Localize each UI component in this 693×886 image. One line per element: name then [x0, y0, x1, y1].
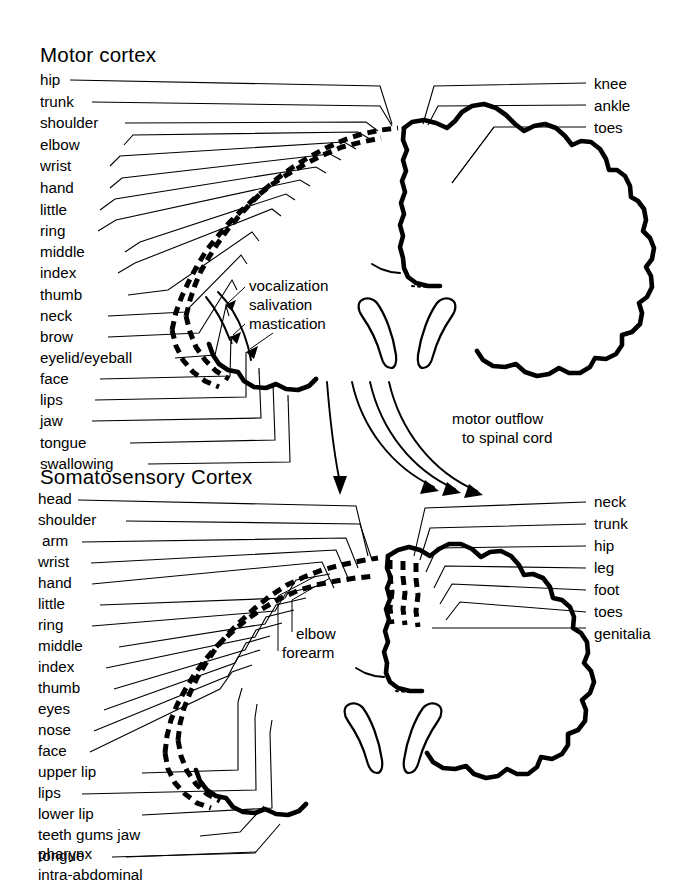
outflow-arrowhead-1 — [333, 476, 347, 495]
outflow-path-1 — [327, 382, 339, 478]
somato-label-head: head — [38, 490, 72, 507]
somatosensory-left-labels: head shoulder arm wrist hand little ring… — [37, 490, 140, 864]
motor-outflow: motor outflow to spinal cord — [327, 382, 552, 498]
somato-label-index: index — [38, 658, 75, 675]
homunculus-figure: Motor cortex — [0, 0, 693, 886]
somato-label-leg: leg — [594, 559, 614, 576]
motor-label-face: face — [40, 370, 69, 387]
motor-label-hip: hip — [40, 71, 60, 88]
motor-cortex-title: Motor cortex — [40, 43, 157, 66]
motor-brain-outline — [209, 104, 654, 390]
somatosensory-bottom-label-group: pharynx intra-abdominal — [38, 845, 438, 886]
motor-outflow-caption-line2: to spinal cord — [462, 429, 552, 446]
motor-label-knee: knee — [594, 75, 627, 92]
somato-label-arm: arm — [42, 532, 68, 549]
somato-label-eyes: eyes — [38, 700, 70, 717]
motor-label-brow: brow — [40, 328, 73, 345]
somatosensory-right-leader-lines — [414, 502, 586, 628]
somato-label-elbow: elbow — [296, 625, 336, 642]
somato-label-teeth-gums-jaw: teeth gums jaw — [38, 826, 140, 843]
somato-label-hip: hip — [594, 537, 614, 554]
somatosensory-cortex-section: Somatosensory Cortex — [37, 465, 651, 864]
somato-label-wrist: wrist — [37, 553, 70, 570]
motor-outflow-caption-line1: motor outflow — [452, 410, 543, 427]
motor-label-shoulder: shoulder — [40, 114, 98, 131]
motor-label-vocalization: vocalization — [249, 277, 328, 294]
motor-label-index: index — [40, 264, 77, 281]
somato-label-face: face — [38, 742, 67, 759]
motor-cortex-band — [172, 128, 398, 387]
somato-label-ring: ring — [38, 616, 63, 633]
somato-label-hand: hand — [38, 574, 72, 591]
motor-label-trunk: trunk — [40, 93, 74, 110]
motor-cortex-section: Motor cortex — [39, 43, 654, 498]
motor-label-thumb: thumb — [40, 286, 82, 303]
somato-label-trunk: trunk — [594, 515, 628, 532]
somato-label-upper-lip: upper lip — [38, 763, 96, 780]
motor-label-ring: ring — [40, 222, 65, 239]
somato-label-forearm: forearm — [282, 644, 334, 661]
somato-label-genitalia: genitalia — [594, 625, 651, 642]
somatosensory-cortex-title: Somatosensory Cortex — [40, 465, 253, 488]
motor-label-lips: lips — [40, 391, 63, 408]
motor-label-mastication: mastication — [249, 315, 326, 332]
somato-label-middle: middle — [38, 637, 83, 654]
motor-label-salivation: salivation — [249, 296, 312, 313]
motor-label-little: little — [40, 201, 67, 218]
somato-label-intra-abdominal: intra-abdominal — [38, 866, 143, 883]
motor-label-wrist: wrist — [39, 157, 72, 174]
somato-label-foot: foot — [594, 581, 620, 598]
somato-label-neck: neck — [594, 493, 626, 510]
somato-label-toes: toes — [594, 603, 623, 620]
motor-right-labels: knee ankle toes — [594, 75, 630, 136]
somato-label-lower-lip: lower lip — [38, 805, 94, 822]
motor-label-eyelid-eyeball: eyelid/eyeball — [40, 349, 132, 366]
motor-label-jaw: jaw — [39, 412, 63, 429]
somato-label-pharynx: pharynx — [38, 845, 92, 862]
motor-label-elbow: elbow — [40, 136, 80, 153]
motor-label-toes: toes — [594, 119, 623, 136]
somato-label-thumb: thumb — [38, 679, 80, 696]
motor-left-labels: hip trunk shoulder elbow wrist hand litt… — [39, 71, 132, 472]
motor-label-middle: middle — [40, 243, 85, 260]
somatosensory-right-labels: neck trunk hip leg foot toes genitalia — [594, 493, 651, 642]
somato-label-little: little — [38, 595, 65, 612]
motor-label-hand: hand — [40, 179, 74, 196]
motor-label-ankle: ankle — [594, 97, 630, 114]
somatosensory-left-leader-lines — [78, 500, 372, 857]
somato-label-shoulder: shoulder — [38, 511, 96, 528]
somato-label-lips: lips — [38, 784, 61, 801]
somato-label-nose: nose — [38, 721, 71, 738]
motor-inner-labels: vocalization salivation mastication — [225, 277, 328, 359]
motor-label-tongue: tongue — [40, 434, 86, 451]
motor-label-neck: neck — [40, 307, 72, 324]
